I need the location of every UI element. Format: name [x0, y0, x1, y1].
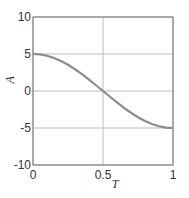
y-tick-label: -5 [20, 121, 31, 135]
y-tick-label: 10 [18, 10, 32, 24]
x-tick-labels: 00.51 [30, 168, 177, 182]
y-tick-labels: -10-50510 [14, 10, 32, 172]
x-axis-label: T [112, 177, 120, 191]
y-tick-label: 0 [24, 84, 31, 98]
chart: 00.51 -10-50510 T A [0, 0, 189, 198]
x-tick-label: 1 [170, 168, 177, 182]
y-tick-label: 5 [24, 47, 31, 61]
y-axis-label: A [3, 76, 17, 85]
x-tick-label: 0.5 [95, 168, 112, 182]
y-tick-label: -10 [14, 158, 32, 172]
